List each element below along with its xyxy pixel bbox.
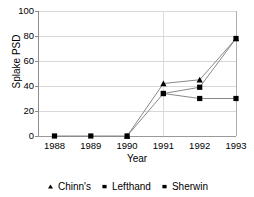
line-chart: Splake PSD 020406080100 1988198919901991… xyxy=(0,0,254,197)
data-point-square xyxy=(197,85,202,90)
square-marker-icon xyxy=(160,182,169,191)
chart-legend: Chinn'sLefthandSherwin xyxy=(0,178,254,194)
triangle-glyph xyxy=(48,184,53,188)
legend-label: Chinn's xyxy=(58,181,91,192)
x-axis-title: Year xyxy=(38,153,236,164)
data-point-square xyxy=(125,133,130,138)
data-point-square xyxy=(52,133,57,138)
square-glyph xyxy=(102,184,106,187)
x-axis-tick-labels: 198819891990199119921993 xyxy=(0,140,254,154)
series-chinn-s xyxy=(124,35,239,138)
y-axis-tick-labels: 020406080100 xyxy=(8,0,34,140)
plot-area xyxy=(38,11,236,136)
y-tick-label: 100 xyxy=(10,6,34,15)
series-line xyxy=(55,39,237,137)
x-tick-label: 1988 xyxy=(35,140,75,151)
square-glyph xyxy=(162,184,166,187)
triangle-marker-icon xyxy=(46,182,55,191)
data-point-square xyxy=(88,133,93,138)
data-point-square xyxy=(161,91,166,96)
y-tick-label: 60 xyxy=(10,56,34,65)
data-point-square xyxy=(233,96,238,101)
y-tick-label: 0 xyxy=(10,131,34,140)
legend-entry[interactable]: Sherwin xyxy=(160,181,208,192)
x-tick-label: 1990 xyxy=(107,140,147,151)
x-tick-label: 1989 xyxy=(71,140,111,151)
y-tick-label: 20 xyxy=(10,106,34,115)
legend-entry[interactable]: Chinn's xyxy=(46,181,91,192)
data-point-square xyxy=(197,96,202,101)
series-line xyxy=(127,39,236,137)
data-point-square xyxy=(233,36,238,41)
y-tick-label: 80 xyxy=(10,31,34,40)
x-tick-label: 1993 xyxy=(216,140,254,151)
x-tick-label: 1991 xyxy=(143,140,183,151)
series-lefthand xyxy=(52,36,239,139)
legend-label: Sherwin xyxy=(172,181,208,192)
legend-entry[interactable]: Lefthand xyxy=(100,181,151,192)
square-marker-icon xyxy=(100,182,109,191)
x-tick-label: 1992 xyxy=(180,140,220,151)
series-sherwin xyxy=(161,91,239,101)
legend-label: Lefthand xyxy=(112,181,151,192)
y-tick-label: 40 xyxy=(10,81,34,90)
plot-canvas xyxy=(38,11,236,136)
